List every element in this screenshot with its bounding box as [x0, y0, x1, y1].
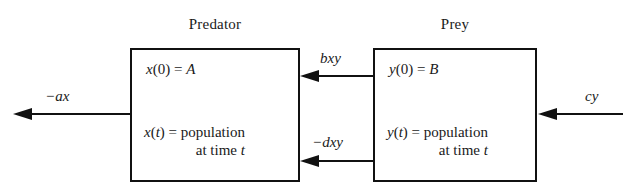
predator-population-definition: x(t) = population at time t [144, 124, 245, 159]
predator-outflow-label: −ax [45, 88, 69, 105]
arrow-head-left-icon [300, 155, 319, 167]
predator-to-prey-arrow-shaft [315, 160, 374, 162]
prey-inflow-arrow-shaft [556, 113, 623, 115]
prey-inflow-label: cy [585, 88, 598, 105]
arrow-head-left-icon [300, 70, 319, 82]
prey-to-predator-arrow-shaft [315, 75, 374, 77]
predator-box-title: Predator [130, 16, 300, 33]
prey-initial-condition: y(0) = B [389, 62, 438, 77]
arrow-head-left-icon [13, 108, 32, 120]
prey-population-definition: y(t) = population at time t [387, 124, 488, 159]
predator-initial-condition: x(0) = A [146, 62, 195, 77]
arrow-head-left-icon [538, 108, 557, 120]
prey-box-title: Prey [373, 16, 537, 33]
prey-population-line-1: y(t) = population [387, 124, 488, 142]
predator-outflow-arrow-shaft [27, 113, 131, 115]
prey-to-predator-label: bxy [320, 50, 341, 67]
predator-to-prey-label: −dxy [312, 134, 343, 151]
predator-population-line-2: at time t [144, 142, 245, 160]
predator-population-line-1: x(t) = population [144, 124, 245, 142]
prey-population-line-2: at time t [387, 142, 488, 160]
predator-prey-diagram: Predator x(0) = A x(t) = population at t… [0, 0, 636, 193]
